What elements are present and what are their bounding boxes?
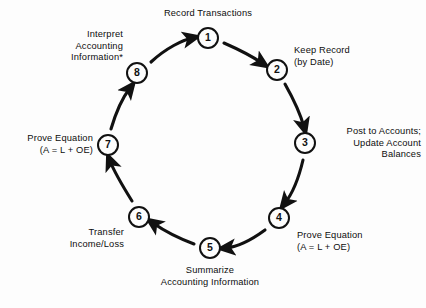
cycle-node-1-label-line-1: Record Transactions xyxy=(148,8,268,20)
arrow-7-to-8 xyxy=(111,88,130,129)
cycle-node-8-label-line-1: Interpret xyxy=(30,29,123,41)
cycle-node-8[interactable]: 8 xyxy=(126,62,148,84)
cycle-node-5[interactable]: 5 xyxy=(199,237,221,259)
cycle-node-8-label-line-3: Information* xyxy=(30,52,123,64)
cycle-node-4-label-line-1: Prove Equation xyxy=(297,230,419,242)
cycle-node-8-label-line-2: Accounting xyxy=(30,41,123,53)
arrow-4-to-5 xyxy=(226,230,265,248)
arrow-6-to-7 xyxy=(110,161,132,201)
cycle-node-3[interactable]: 3 xyxy=(294,132,316,154)
cycle-node-2-label-line-2: (by Date) xyxy=(294,57,404,69)
cycle-node-1-label: Record Transactions xyxy=(148,8,268,20)
cycle-node-7-label-line-2: (A = L + OE) xyxy=(4,145,93,157)
cycle-node-4-label-line-2: (A = L + OE) xyxy=(297,242,419,254)
cycle-node-5-label-line-1: Summarize xyxy=(150,265,270,277)
cycle-node-6-label-line-2: Income/Loss xyxy=(10,239,124,251)
cycle-node-3-label-line-2: Update Account xyxy=(299,138,421,150)
arrow-5-to-6 xyxy=(153,223,194,244)
cycle-node-7-label-line-1: Prove Equation xyxy=(4,133,93,145)
arrow-8-to-1 xyxy=(151,38,192,62)
cycle-node-2-label-line-1: Keep Record xyxy=(294,45,404,57)
arrow-1-to-2 xyxy=(224,43,262,63)
cycle-node-6-label: Transfer Income/Loss xyxy=(10,227,124,250)
cycle-node-5-label-line-2: Accounting Information xyxy=(150,277,270,289)
cycle-node-4-label: Prove Equation (A = L + OE) xyxy=(297,230,419,253)
accounting-cycle-diagram: 1 Record Transactions 2 Keep Record (by … xyxy=(0,0,426,308)
cycle-node-3-label-line-3: Balances xyxy=(299,149,421,161)
arrow-3-to-4 xyxy=(285,160,303,203)
cycle-node-7-label: Prove Equation (A = L + OE) xyxy=(4,133,93,156)
cycle-node-6[interactable]: 6 xyxy=(128,206,150,228)
cycle-node-4[interactable]: 4 xyxy=(268,207,290,229)
cycle-node-3-label: Post to Accounts; Update Account Balance… xyxy=(299,126,421,161)
arrow-2-to-3 xyxy=(285,84,304,127)
cycle-node-6-label-line-1: Transfer xyxy=(10,227,124,239)
cycle-node-2[interactable]: 2 xyxy=(266,59,288,81)
cycle-node-2-label: Keep Record (by Date) xyxy=(294,45,404,68)
cycle-node-3-label-line-1: Post to Accounts; xyxy=(299,126,421,138)
cycle-node-8-label: Interpret Accounting Information* xyxy=(30,29,123,64)
cycle-node-7[interactable]: 7 xyxy=(97,134,119,156)
cycle-node-5-label: Summarize Accounting Information xyxy=(150,265,270,288)
cycle-node-1[interactable]: 1 xyxy=(197,27,219,49)
